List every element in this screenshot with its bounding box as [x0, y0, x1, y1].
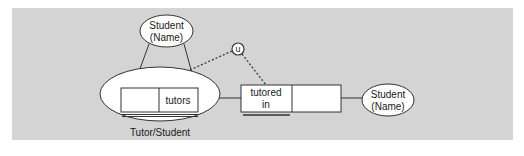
unique-marker[interactable]: u [232, 43, 244, 55]
right-entity-line1: Student [371, 89, 406, 100]
composite-entity-label: Tutor/Student [130, 127, 190, 138]
unique-marker-label: u [235, 44, 240, 54]
relation-box[interactable]: tutored in [241, 85, 341, 115]
right-entity-line2: (Name) [371, 101, 404, 112]
diagram-panel [12, 8, 513, 140]
top-entity[interactable]: Student (Name) [140, 15, 193, 47]
top-entity-line2: (Name) [150, 32, 183, 43]
top-entity-line1: Student [149, 20, 184, 31]
relation-box-line1: tutored [250, 87, 281, 98]
relation-box-line2: in [262, 99, 270, 110]
er-diagram: Student (Name) u tutors Tutor/Student tu… [0, 0, 524, 156]
right-entity[interactable]: Student (Name) [362, 84, 414, 116]
composite-entity-cell-right: tutors [165, 95, 190, 106]
